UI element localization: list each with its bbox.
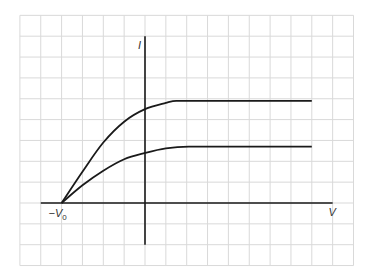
iv-characteristic-chart: I V −V0	[0, 0, 376, 277]
neg-v0-label: −V0	[49, 207, 68, 222]
v-axis-label: V	[328, 206, 337, 218]
i-axis-label: I	[138, 39, 141, 51]
neg-v0-subscript: 0	[62, 213, 67, 222]
grid	[20, 15, 354, 265]
